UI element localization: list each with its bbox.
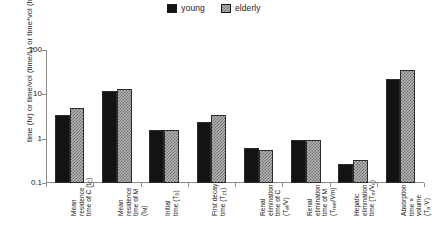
x-axis-label: Absorptiontime ×volume(Ta·V)	[377, 186, 424, 248]
y-axis-tick-label: 0.1	[31, 179, 42, 187]
bar-young[interactable]	[55, 115, 70, 183]
checkered-gray-square-icon	[221, 4, 231, 13]
y-axis-tick-label: 100	[29, 46, 42, 54]
x-axis-label-text: First decaytime (Tz1)	[211, 156, 227, 216]
bar-young[interactable]	[244, 148, 259, 183]
x-axis-label: Hepaticeliminationtime (Tm/Vc)	[330, 186, 377, 248]
bar-young[interactable]	[149, 130, 164, 183]
bar-young[interactable]	[102, 91, 117, 183]
x-axis-labels: Meanresidencetime of C (tC)Meanresidence…	[46, 186, 424, 248]
x-axis-label-text: Meanresidencetime of C (tC)	[70, 156, 94, 216]
y-axis-tick	[42, 50, 47, 51]
y-axis-tick	[42, 94, 47, 95]
y-axis-tick	[42, 139, 47, 140]
y-axis-tick-label: 10	[33, 90, 42, 98]
legend-label-young: young	[181, 3, 205, 13]
x-axis-label: Initialtime (T0)	[141, 186, 188, 248]
legend-entry-young: young	[167, 3, 205, 13]
y-axis-title: time (hr) or time/vol (time/L) or time*v…	[25, 0, 34, 150]
bar-young[interactable]	[197, 122, 212, 183]
solid-black-square-icon	[167, 4, 177, 13]
legend-entry-elderly: elderly	[221, 3, 261, 13]
x-axis-label: First decaytime (Tz1)	[188, 186, 235, 248]
y-axis-line	[46, 50, 47, 183]
x-axis-label: Renaleliminationtime of M(Tmel/Vm)	[282, 186, 329, 248]
bar-young[interactable]	[386, 79, 401, 183]
x-axis-label: Meanresidencetime of C (tC)	[46, 186, 93, 248]
x-axis-label-text: Initialtime (T0)	[164, 156, 180, 216]
y-axis-tick-label: 1	[38, 135, 42, 143]
chart-legend: young elderly	[0, 3, 428, 13]
x-axis-label-text: Hepaticeliminationtime (Tm/Vc)	[353, 156, 377, 216]
x-axis-label: Renaleliminationtime of C(Tel/V)	[235, 186, 282, 248]
legend-label-elderly: elderly	[235, 3, 261, 13]
bar-young[interactable]	[338, 164, 353, 183]
x-axis-label: Meanresidencetime of M(tM)	[93, 186, 140, 248]
bar-young[interactable]	[291, 140, 306, 183]
x-axis-label-text: Absorptiontime ×volume(Ta·V)	[400, 156, 431, 216]
